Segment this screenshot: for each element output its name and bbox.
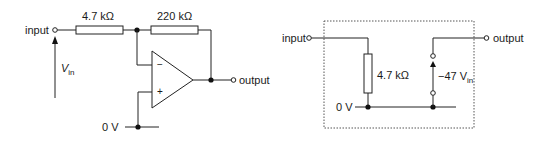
eq-resistor-rin [364, 54, 372, 93]
vin-label: Vin [61, 62, 75, 77]
eq-source-label: −47 Vin [438, 70, 473, 85]
rin-label: 4.7 kΩ [82, 10, 114, 22]
inverting-amplifier-circuit: input 4.7 kΩ 220 kΩ − + output 0 V [25, 10, 270, 133]
rf-label: 220 kΩ [157, 10, 192, 22]
equivalent-circuit: input 4.7 kΩ 0 V −47 Vin output [282, 21, 524, 128]
output-label: output [239, 74, 270, 86]
ground-node [135, 124, 140, 129]
input-label: input [25, 24, 49, 36]
circuit-diagram: input 4.7 kΩ 220 kΩ − + output 0 V [0, 0, 545, 143]
eq-wire-input [311, 38, 368, 54]
wire-feedback [198, 30, 211, 80]
wire-inverting-input [137, 30, 152, 65]
eq-source-terminal-top [431, 54, 436, 59]
eq-input-label: input [282, 32, 306, 44]
opamp-minus-sign: − [157, 59, 163, 70]
vin-arrow-head-icon [52, 36, 58, 44]
output-node [208, 77, 213, 82]
resistor-rin [76, 26, 123, 34]
output-terminal [231, 78, 236, 83]
eq-source-terminal-bottom [431, 91, 436, 96]
ground-label: 0 V [102, 121, 119, 133]
eq-ground-label: 0 V [336, 101, 353, 113]
eq-output-terminal [484, 36, 489, 41]
eq-source-arrow-head-icon [430, 61, 436, 67]
eq-rin-label: 4.7 kΩ [377, 69, 409, 81]
resistor-rf [151, 26, 198, 34]
eq-output-label: output [493, 32, 524, 44]
wire-noninverting-input [138, 92, 152, 127]
eq-wire-output [433, 38, 484, 54]
opamp-plus-sign: + [157, 86, 163, 97]
input-terminal [53, 28, 58, 33]
eq-input-terminal [307, 36, 312, 41]
eq-ground-node-left [365, 104, 370, 109]
